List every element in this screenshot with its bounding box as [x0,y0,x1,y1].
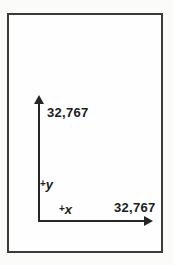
diagram-frame [7,13,163,253]
x-axis-max-value-label: 32,767 [114,201,156,215]
y-axis-name-label: +y [40,177,53,192]
y-axis-letter: y [46,177,54,192]
y-axis-max-value-label: 32,767 [47,106,89,120]
x-axis-line [38,220,146,222]
x-axis-name-label: +x [59,202,72,217]
x-axis-arrowhead-icon [144,216,153,226]
y-axis-arrowhead-icon [34,95,44,104]
y-axis-line [38,103,40,222]
x-axis-letter: x [65,202,73,217]
diagram-canvas: 32,767 +y +x 32,767 [0,0,173,265]
